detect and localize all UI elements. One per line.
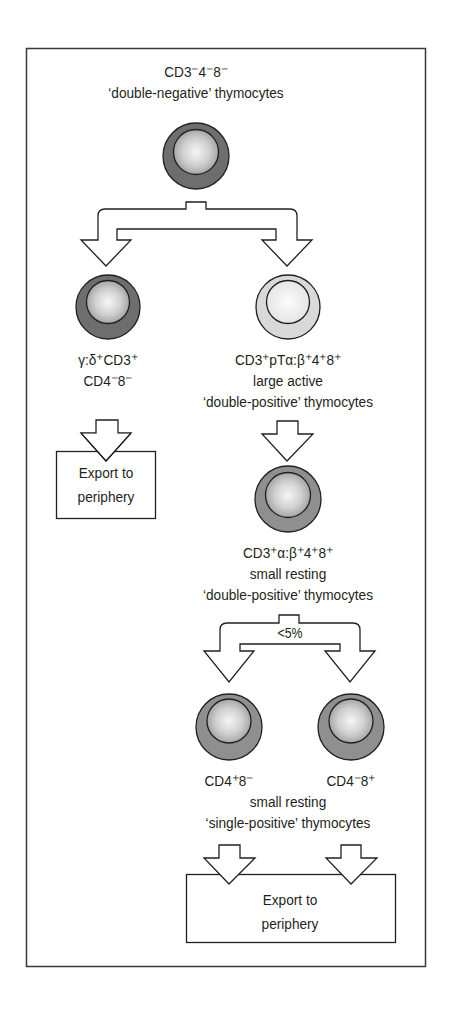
export-bottom-text: Export to periphery xyxy=(202,888,378,936)
label-double-negative: CD3⁻4⁻8⁻ ‘double-negative’ thymocytes xyxy=(73,61,319,103)
label-double-negative-markers: CD3⁻4⁻8⁻ xyxy=(73,61,319,82)
label-small-double-positive: CD3⁺α:β⁺4⁺8⁺ small resting ‘double-posit… xyxy=(174,542,403,605)
label-single-positive-shared: small resting ‘single-positive’ thymocyt… xyxy=(174,791,403,833)
label-cd8-single-positive: CD4⁻8⁺ xyxy=(307,770,395,791)
cell-cd4-single-positive-icon xyxy=(196,694,262,760)
cell-double-negative-icon xyxy=(163,123,229,189)
cell-gamma-delta-icon xyxy=(76,275,140,339)
label-sp-name: ‘single-positive’ thymocytes xyxy=(174,812,403,833)
label-gamma-delta: γ:δ⁺CD3⁺ CD4⁻8⁻ xyxy=(38,349,179,391)
export-bottom-line1: Export to xyxy=(202,888,378,912)
export-left-text: Export to periphery xyxy=(62,461,150,509)
label-double-negative-name: ‘double-negative’ thymocytes xyxy=(73,82,319,103)
export-left-line1: Export to xyxy=(62,461,150,485)
label-cd8-markers: CD4⁻8⁺ xyxy=(307,770,395,791)
label-gamma-delta-cd: CD4⁻8⁻ xyxy=(38,370,179,391)
label-small-dp-name: ‘double-positive’ thymocytes xyxy=(174,584,403,605)
label-branch-fraction: <5% xyxy=(264,624,317,642)
export-bottom-line2: periphery xyxy=(202,912,378,936)
label-small-dp-markers: CD3⁺α:β⁺4⁺8⁺ xyxy=(174,542,403,563)
label-cd4-single-positive: CD4⁺8⁻ xyxy=(185,770,273,791)
label-large-dp-markers: CD3⁺pTα:β⁺4⁺8⁺ xyxy=(174,349,403,370)
cell-small-double-positive-icon xyxy=(255,466,321,532)
label-sp-size: small resting xyxy=(174,791,403,812)
cell-cd8-single-positive-icon xyxy=(318,694,384,760)
thymocyte-development-diagram xyxy=(0,0,451,1018)
label-large-dp-size: large active xyxy=(174,370,403,391)
label-large-dp-name: ‘double-positive’ thymocytes xyxy=(174,391,403,412)
label-large-double-positive: CD3⁺pTα:β⁺4⁺8⁺ large active ‘double-posi… xyxy=(174,349,403,412)
label-cd4-markers: CD4⁺8⁻ xyxy=(185,770,273,791)
export-left-line2: periphery xyxy=(62,485,150,509)
label-gamma-delta-markers: γ:δ⁺CD3⁺ xyxy=(38,349,179,370)
cell-large-double-positive-icon xyxy=(256,275,320,339)
label-small-dp-size: small resting xyxy=(174,563,403,584)
